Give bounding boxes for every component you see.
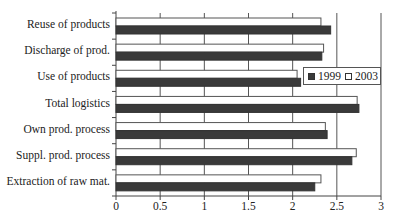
bar-1999 (116, 157, 352, 165)
plot-area (0, 0, 397, 220)
legend-swatch-2003 (345, 73, 352, 80)
category-label: Use of products (37, 70, 110, 82)
x-tick-label: 2 (290, 200, 296, 212)
legend-label-1999: 1999 (318, 70, 341, 82)
bar-chart (0, 0, 397, 220)
category-label: Reuse of products (27, 18, 110, 30)
x-tick-label: 3 (378, 200, 384, 212)
x-tick-label: 0 (113, 200, 119, 212)
x-tick-label: 0.5 (153, 200, 167, 212)
legend: 1999 2003 (303, 67, 381, 85)
bar-1999 (116, 183, 315, 191)
bar-1999 (116, 26, 331, 34)
category-label: Discharge of prod. (24, 44, 110, 56)
legend-swatch-1999 (308, 73, 315, 80)
x-tick-label: 1 (201, 200, 207, 212)
x-tick-label: 1.5 (241, 200, 255, 212)
category-label: Extraction of raw mat. (7, 175, 110, 187)
bar-2003 (116, 44, 324, 52)
bar-1999 (116, 131, 327, 139)
category-label: Own prod. process (23, 123, 110, 135)
bar-2003 (116, 18, 321, 26)
bar-1999 (116, 78, 301, 86)
bar-1999 (116, 52, 322, 60)
bar-2003 (116, 123, 325, 131)
category-label: Total logistics (45, 97, 110, 109)
bar-2003 (116, 175, 321, 183)
category-label: Suppl. prod. process (16, 149, 110, 161)
bar-2003 (116, 149, 356, 157)
bar-2003 (116, 70, 297, 78)
legend-label-2003: 2003 (355, 70, 378, 82)
bar-2003 (116, 96, 357, 104)
x-tick-label: 2.5 (330, 200, 344, 212)
bar-1999 (116, 104, 359, 112)
